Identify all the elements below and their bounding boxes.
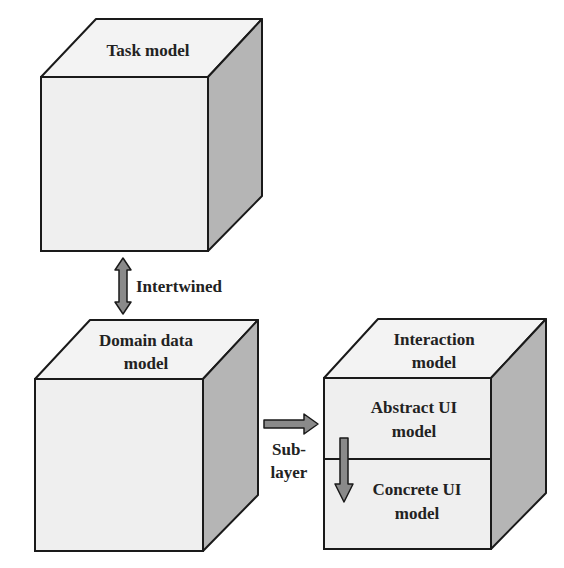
intertwined-label: Intertwined: [136, 277, 222, 296]
diagram-canvas: Task model Intertwined Domain data model…: [0, 0, 564, 568]
domain-model-label-line2: model: [124, 354, 169, 373]
domain-data-model-cube: Domain data model: [35, 320, 258, 551]
interaction-model-label-line2: model: [412, 353, 457, 372]
abstract-ui-label-line2: model: [392, 422, 437, 441]
sublayer-label-line2: layer: [271, 463, 308, 482]
concrete-ui-label-line1: Concrete UI: [373, 480, 462, 499]
interaction-model-cube: Interaction model Abstract UI model Conc…: [324, 319, 546, 549]
double-arrow-icon: [115, 258, 131, 314]
concrete-ui-label-line2: model: [395, 504, 440, 523]
domain-model-label-line1: Domain data: [99, 331, 193, 350]
task-model-cube: Task model: [41, 19, 262, 251]
right-arrow-icon: [264, 414, 318, 434]
intertwined-connector: Intertwined: [115, 258, 222, 314]
abstract-ui-label-line1: Abstract UI: [371, 398, 458, 417]
interaction-model-label-line1: Interaction: [393, 330, 475, 349]
sublayer-connector: Sub- layer: [264, 414, 318, 482]
sublayer-label-line1: Sub-: [272, 440, 306, 459]
task-cube-front-face: [41, 77, 208, 251]
task-model-label: Task model: [107, 41, 190, 60]
domain-cube-front-face: [35, 379, 203, 551]
